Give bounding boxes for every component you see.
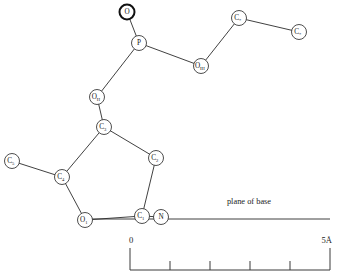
atom-c4p[interactable]: C4 (55, 170, 70, 185)
bond-P-O3 (146, 45, 195, 63)
atom-circle-o3 (194, 59, 209, 74)
atom-circle-p (132, 36, 147, 51)
plane-of-base-label: plane of base (227, 197, 271, 206)
plane-of-base-group: plane of base (92, 197, 330, 219)
bond-layer (19, 19, 293, 220)
scale-label-min: 0 (129, 235, 133, 245)
atom-c4star[interactable]: C* (292, 25, 307, 40)
atom-o3[interactable]: OIII (194, 59, 209, 74)
diagram-canvas: plane of base OPOIIIC*C*OIIC3C2C4C5O1C1N… (0, 0, 345, 273)
atom-circle-c1p (135, 209, 150, 224)
atom-circle-c5p (5, 154, 20, 169)
atom-c5p[interactable]: C5 (5, 154, 20, 169)
atom-o[interactable]: O (120, 5, 135, 20)
atom-circle-c3p (97, 120, 112, 135)
scale-bar-ticks (170, 261, 290, 270)
atom-circle-c4star (292, 25, 307, 40)
scale-label-max: 5Å (321, 235, 332, 245)
atom-p[interactable]: P (132, 36, 147, 51)
bond-C3p-C4p (67, 132, 100, 171)
bond-C3star-C4star (246, 20, 292, 31)
nucleotide-diagram-figure: plane of base OPOIIIC*C*OIIC3C2C4C5O1C1N… (0, 0, 345, 273)
bond-C4p-O1p (65, 183, 81, 214)
atom-o1p[interactable]: O1 (78, 213, 93, 228)
bond-C4p-C5p (19, 163, 56, 175)
atom-layer: OPOIIIC*C*OIIC3C2C4C5O1C1N (5, 5, 307, 228)
atom-o5[interactable]: OII (90, 90, 105, 105)
bond-O5-C3p (99, 104, 103, 120)
atom-circle-o1p (78, 213, 93, 228)
atom-c3p[interactable]: C3 (97, 120, 112, 135)
bond-C3p-C2p (110, 131, 150, 155)
bond-O3-C3star (205, 23, 234, 60)
atom-c3star[interactable]: C* (232, 11, 247, 26)
atom-circle-c3star (232, 11, 247, 26)
atom-circle-o5 (90, 90, 105, 105)
atom-circle-c4p (55, 170, 70, 185)
scale-bar-axis (130, 248, 330, 270)
atom-c1p[interactable]: C1 (135, 209, 150, 224)
atom-circle-o (120, 5, 135, 20)
atom-circle-c2p (149, 151, 164, 166)
scale-bar-group: 0 5Å (129, 235, 333, 270)
atom-c2p[interactable]: C2 (149, 151, 164, 166)
bond-O-P (130, 19, 137, 37)
bond-C2p-C1p (144, 165, 155, 209)
atom-circle-n (154, 210, 169, 225)
bond-P-O5 (101, 49, 134, 92)
atom-n[interactable]: N (154, 210, 169, 225)
